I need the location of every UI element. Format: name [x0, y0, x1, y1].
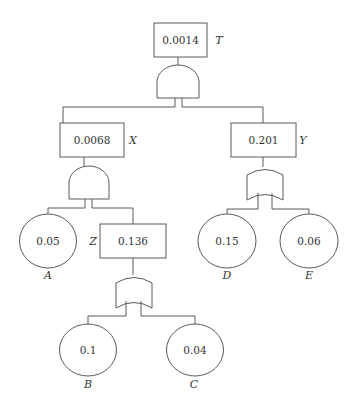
- event-value-C: 0.04: [183, 344, 207, 356]
- or-gate-icon: [247, 170, 283, 201]
- event-value-E: 0.06: [297, 235, 321, 247]
- event-T: 0.0014 T: [154, 23, 224, 57]
- event-D: 0.15 D: [198, 214, 256, 282]
- fault-tree-diagram: 0.0014 T 0.0068 X 0.201 Y 0.05 A 0.136 Z: [0, 0, 354, 404]
- event-label-E: E: [304, 269, 313, 282]
- and-gate-icon: [157, 65, 199, 98]
- event-label-Z: Z: [88, 235, 97, 248]
- event-value-X: 0.0068: [74, 134, 111, 146]
- event-label-X: X: [128, 134, 138, 147]
- connector-T-Y: [182, 98, 263, 123]
- event-label-T: T: [215, 34, 224, 47]
- event-label-C: C: [190, 378, 199, 391]
- and-gate-icon: [69, 166, 109, 199]
- event-value-Y: 0.201: [248, 134, 278, 146]
- event-label-D: D: [222, 269, 232, 282]
- event-C: 0.04 C: [167, 324, 224, 391]
- event-label-B: B: [83, 378, 92, 391]
- event-value-Z: 0.136: [118, 235, 148, 247]
- event-value-D: 0.15: [215, 235, 238, 247]
- event-value-T: 0.0014: [162, 34, 199, 46]
- or-gate-icon: [116, 278, 152, 309]
- event-value-A: 0.05: [36, 235, 59, 247]
- event-B: 0.1 B: [60, 324, 117, 391]
- event-label-Y: Y: [299, 134, 308, 147]
- event-X: 0.0068 X: [60, 123, 138, 157]
- event-Z: 0.136 Z: [88, 224, 166, 258]
- event-E: 0.06 E: [280, 214, 338, 282]
- event-A: 0.05 A: [20, 214, 77, 282]
- connector-X-Z: [92, 199, 133, 224]
- event-value-B: 0.1: [80, 344, 97, 356]
- event-label-A: A: [43, 269, 52, 282]
- connector-X-A: [48, 199, 85, 214]
- event-Y: 0.201 Y: [231, 123, 308, 157]
- connector-T-X: [63, 98, 175, 123]
